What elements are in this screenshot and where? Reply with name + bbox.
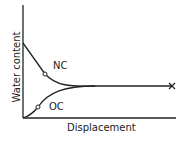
nc-label: NC xyxy=(53,60,67,71)
y-axis-label: Water content xyxy=(11,33,22,103)
x-axis-label: Displacement xyxy=(67,122,136,133)
oc-label: OC xyxy=(49,101,64,112)
nc-marker xyxy=(43,72,47,76)
nc-curve xyxy=(23,43,172,86)
chart-plot xyxy=(0,0,185,141)
oc-marker xyxy=(36,105,40,109)
